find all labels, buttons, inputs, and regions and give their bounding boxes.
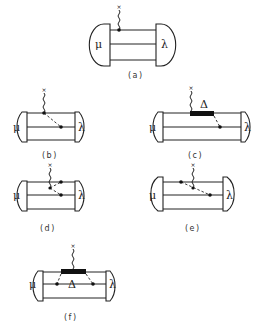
panel-label-b: (b) (42, 151, 58, 160)
panel-c: × Δ μ λ (c) (149, 84, 251, 160)
exchange-line-b (44, 113, 61, 127)
delta-label-f: Δ (68, 278, 76, 291)
mu-label-f: μ (29, 278, 36, 291)
photon-line-e (192, 168, 194, 188)
panel-f: × Δ μ λ (f) (29, 242, 116, 322)
feynman-diagram-figure: × μ λ (a) × μ λ (b) × Δ μ λ (c) (0, 0, 265, 333)
lambda-label-c: λ (244, 121, 251, 134)
panel-label-f: (f) (64, 313, 78, 322)
exchange-line-e (181, 182, 210, 195)
delta-propagator-c (190, 111, 214, 116)
photon-end-d: × (48, 161, 53, 168)
delta-label-c: Δ (200, 98, 208, 111)
panel-label-e: (e) (185, 224, 201, 233)
panel-a: × μ λ (a) (89, 3, 175, 80)
lambda-label-d: λ (78, 189, 85, 202)
delta-propagator-f (61, 269, 86, 274)
panel-d: × μ λ (d) (13, 161, 85, 233)
panel-label-c: (c) (188, 151, 203, 160)
mu-label-e: μ (149, 189, 156, 202)
photon-end-a: × (117, 3, 122, 10)
photon-end-f: × (71, 242, 76, 249)
exchange-line-d2 (50, 188, 61, 195)
mu-label-c: μ (149, 121, 156, 134)
lambda-label-b: λ (78, 121, 85, 134)
vertex-a (117, 28, 121, 32)
exchange-line-d1 (50, 182, 61, 188)
mu-label-a: μ (95, 38, 102, 51)
photon-line-f (72, 249, 74, 269)
mu-label-d: μ (13, 189, 20, 202)
photon-line-d (49, 168, 51, 188)
mu-label-b: μ (13, 121, 20, 134)
photon-line-b (43, 93, 45, 113)
lambda-label-e: λ (226, 189, 233, 202)
panel-b: × μ λ (b) (13, 86, 85, 160)
panel-label-d: (d) (40, 224, 56, 233)
photon-end-c: × (189, 84, 194, 91)
exchange-line-c (214, 116, 220, 127)
panel-e: × μ λ (e) (149, 161, 234, 233)
photon-end-b: × (42, 86, 47, 93)
lambda-label-f: λ (109, 278, 116, 291)
exchange-line-f2 (86, 274, 93, 284)
photon-line-a (118, 10, 120, 30)
photon-line-c (190, 91, 192, 111)
photon-end-e: × (191, 161, 196, 168)
panel-label-a: (a) (128, 71, 144, 80)
lambda-label-a: λ (161, 38, 168, 51)
